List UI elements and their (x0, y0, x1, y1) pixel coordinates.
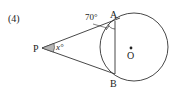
problem-number: (4) (8, 13, 20, 25)
point-p-label: P (33, 43, 39, 54)
center-dot (130, 47, 133, 50)
angle-x-label: x° (55, 42, 64, 52)
tangent-circle-diagram: (4) 70° A P x° O B (0, 0, 173, 93)
point-a-label: A (110, 9, 118, 20)
angle-70-label: 70° (85, 12, 98, 22)
angle-x-marker (42, 43, 54, 52)
circle-o (100, 13, 168, 81)
point-o-label: O (127, 50, 134, 61)
point-b-label: B (110, 78, 117, 89)
